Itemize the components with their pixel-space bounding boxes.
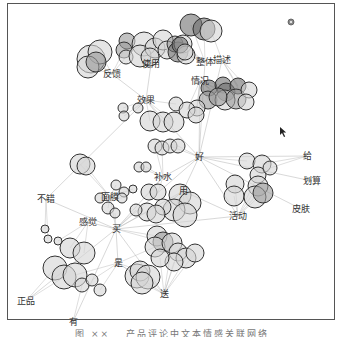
node-circle: [188, 107, 204, 123]
node-circle: [73, 242, 95, 264]
node-circle: [177, 44, 193, 60]
node-circle: [151, 249, 169, 267]
node-circle: [200, 20, 222, 42]
node-circle: [186, 244, 204, 262]
node-circle: [238, 94, 254, 110]
node-label-yong: 用: [179, 186, 188, 196]
node-cluster-c8: [224, 153, 277, 208]
node-circle: [129, 185, 137, 193]
node-label-gei: 给: [303, 150, 312, 161]
node-cluster-c6: [134, 139, 185, 172]
node-cluster-c3: [172, 14, 222, 60]
node-label-pifu: 皮肤: [292, 203, 310, 214]
node-cluster-layer: [41, 14, 277, 296]
gear-icon-center: [290, 21, 292, 23]
node-label-qingkuang: 情况: [191, 75, 209, 86]
node-label-huasuan: 划算: [303, 175, 321, 186]
node-circle: [44, 235, 52, 243]
node-circle: [131, 272, 153, 294]
node-circle: [141, 162, 151, 172]
node-label-zhengti: 整体: [196, 56, 214, 67]
node-circle: [253, 183, 273, 203]
node-circle: [209, 88, 227, 106]
node-cluster-c11: [145, 226, 204, 271]
node-cluster-c7: [70, 154, 95, 175]
node-circle: [86, 274, 98, 286]
node-label-hao: 好: [195, 151, 204, 162]
node-label-miaoshu: 描述: [213, 54, 231, 65]
node-label-xiaoguo: 效果: [137, 94, 155, 105]
node-label-shi: 是: [114, 258, 123, 268]
node-circle: [224, 186, 244, 206]
node-label-mai: 买: [112, 224, 121, 234]
node-label-zhengpin: 正品: [17, 296, 35, 306]
node-label-song: 送: [160, 288, 169, 299]
edge: [46, 100, 146, 199]
node-circle: [171, 139, 185, 153]
node-circle: [239, 153, 255, 169]
node-circle: [77, 157, 95, 175]
node-circle: [41, 225, 49, 233]
node-label-you: 有: [69, 316, 78, 327]
extras-layer: [280, 19, 294, 137]
node-circle: [147, 205, 165, 223]
node-cluster-c12: [125, 261, 160, 294]
node-circle: [173, 203, 197, 227]
node-circle: [130, 204, 142, 216]
co-occurrence-network: 反馈使用整体描述情况效果好补水用活动给划算皮肤不错面膜感觉买是送正品有: [0, 0, 344, 337]
node-label-bucuo: 不错: [37, 193, 55, 204]
node-label-mianmo: 面膜: [101, 192, 119, 202]
node-label-fankui: 反馈: [103, 68, 121, 79]
node-circle: [110, 208, 120, 218]
figure-caption: 图 ×× 产品评论中文本情感关联网络: [0, 328, 344, 337]
node-circle: [94, 284, 106, 296]
node-circle: [263, 161, 277, 175]
mouse-pointer-icon: [280, 127, 286, 137]
node-label-bushui: 补水: [154, 171, 172, 182]
node-label-huodong: 活动: [229, 210, 247, 221]
node-circle: [150, 184, 166, 200]
node-label-ganjue: 感觉: [79, 216, 97, 227]
node-circle: [111, 180, 121, 190]
node-label-shiyong: 使用: [142, 58, 160, 69]
node-circle: [119, 111, 129, 121]
